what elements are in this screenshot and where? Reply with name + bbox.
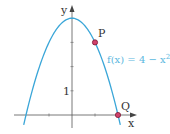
x-axis-label: x [128,117,135,130]
point-label-q: Q [121,100,130,113]
y-axis-label: y [60,4,68,17]
y-axis-arrow-icon [70,5,75,12]
point-p [92,40,97,45]
axes: x y [14,4,137,130]
chart: x y 1 PQ f(x) = 4 − x2 [0,0,170,134]
y-tick-label: 1 [63,85,70,98]
points: PQ [92,27,130,117]
function-label: f(x) = 4 − x2 [107,53,170,65]
point-q [115,112,120,117]
point-label-p: P [98,27,106,40]
